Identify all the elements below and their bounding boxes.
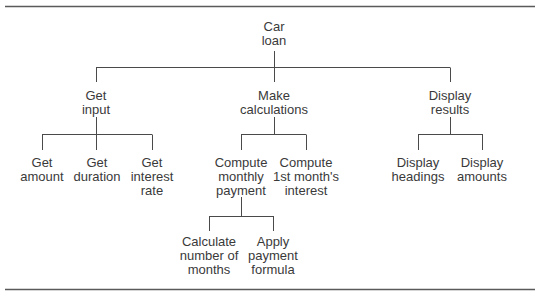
node-label-line: interest xyxy=(131,170,174,184)
node-label-line: Apply xyxy=(248,235,298,249)
node-label-line: interest xyxy=(273,184,339,198)
node-label-line: amounts xyxy=(457,170,507,184)
node-label-line: 1st month's xyxy=(273,170,339,184)
node-label-line: Compute xyxy=(273,156,339,170)
node-label-line: formula xyxy=(248,263,298,277)
node-label-line: monthly xyxy=(215,170,268,184)
node-label-line: rate xyxy=(131,184,174,198)
node-label-line: Get xyxy=(74,156,121,170)
node-label-line: number of xyxy=(180,249,239,263)
node-label-line: Get xyxy=(82,89,110,103)
node-display-amounts: Display amounts xyxy=(457,156,507,184)
node-apply-payment-formula: Apply payment formula xyxy=(248,235,298,277)
node-get-input: Get input xyxy=(82,89,110,117)
node-label-line: Display xyxy=(392,156,445,170)
node-label-line: Get xyxy=(131,156,174,170)
node-car-loan: Car loan xyxy=(262,20,287,48)
node-label-line: Calculate xyxy=(180,235,239,249)
node-display-headings: Display headings xyxy=(392,156,445,184)
node-label-line: headings xyxy=(392,170,445,184)
node-label-line: payment xyxy=(215,184,268,198)
node-label-line: months xyxy=(180,263,239,277)
node-label-line: calculations xyxy=(240,103,308,117)
node-compute-first-month-interest: Compute 1st month's interest xyxy=(273,156,339,198)
node-label-line: Get xyxy=(20,156,63,170)
node-label-line: Make xyxy=(240,89,308,103)
node-label-line: input xyxy=(82,103,110,117)
node-label-line: payment xyxy=(248,249,298,263)
node-label-line: results xyxy=(429,103,472,117)
node-get-amount: Get amount xyxy=(20,156,63,184)
node-display-results: Display results xyxy=(429,89,472,117)
node-label-line: amount xyxy=(20,170,63,184)
node-calculate-number-of-months: Calculate number of months xyxy=(180,235,239,277)
node-label-line: duration xyxy=(74,170,121,184)
node-label-line: Display xyxy=(457,156,507,170)
node-label-line: Display xyxy=(429,89,472,103)
node-compute-monthly-payment: Compute monthly payment xyxy=(215,156,268,198)
node-get-duration: Get duration xyxy=(74,156,121,184)
node-label-line: Compute xyxy=(215,156,268,170)
node-label-line: Car xyxy=(262,20,287,34)
node-make-calculations: Make calculations xyxy=(240,89,308,117)
node-label-line: loan xyxy=(262,34,287,48)
node-get-interest-rate: Get interest rate xyxy=(131,156,174,198)
